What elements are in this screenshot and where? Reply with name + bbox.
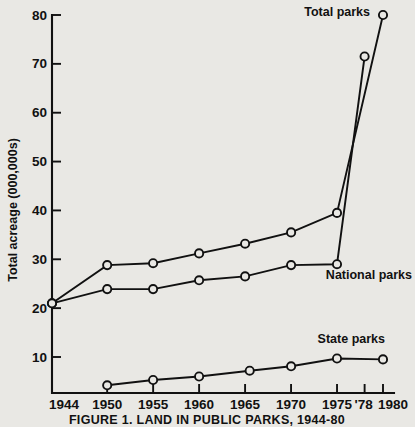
series-label-total-parks: Total parks [304, 5, 370, 19]
data-point-marker [241, 272, 249, 280]
data-point-marker [379, 355, 387, 363]
x-tick-label: 1980 [378, 397, 408, 412]
y-axis-label: Total acreage (000,000s) [6, 138, 20, 282]
data-point-marker [48, 299, 56, 307]
data-point-marker [287, 362, 295, 370]
data-point-marker [195, 372, 203, 380]
data-point-marker [149, 259, 157, 267]
y-tick-label: 50 [32, 154, 47, 169]
data-point-marker [287, 261, 295, 269]
figure-container: 1020304050607080 19441950195519601965197… [0, 0, 415, 427]
data-point-marker [379, 11, 387, 19]
x-tick-label: 1960 [184, 397, 214, 412]
x-tick-label: 1950 [92, 397, 122, 412]
data-point-marker [361, 52, 369, 60]
series-annotations: Total parksNational parksState parks [304, 5, 412, 346]
data-point-marker [103, 285, 111, 293]
data-point-marker [333, 209, 341, 217]
x-tick-label: 1970 [276, 397, 306, 412]
data-point-marker [149, 376, 157, 384]
y-tick-label: 60 [32, 105, 47, 120]
data-point-marker [287, 228, 295, 236]
series-line-total-parks [52, 15, 383, 303]
data-point-marker [149, 285, 157, 293]
data-point-marker [333, 354, 341, 362]
y-tick-label: 80 [32, 8, 47, 23]
data-point-marker [195, 249, 203, 257]
x-axis-ticks [107, 384, 383, 393]
series-line-national-parks [52, 57, 365, 304]
series-label-national-parks: National parks [326, 268, 412, 282]
y-axis-tick-labels: 1020304050607080 [32, 8, 47, 365]
data-point-marker [241, 240, 249, 248]
x-tick-label: 1944 [49, 397, 80, 412]
y-tick-label: 20 [32, 301, 47, 316]
series-label-state-parks: State parks [318, 332, 385, 346]
x-axis-tick-labels: 1944195019551960196519701975'781980 [49, 397, 408, 412]
y-tick-label: 10 [32, 350, 47, 365]
data-point-marker [246, 367, 254, 375]
data-point-marker [195, 276, 203, 284]
y-tick-label: 40 [32, 203, 47, 218]
data-point-marker [103, 261, 111, 269]
figure-caption: FIGURE 1. LAND IN PUBLIC PARKS, 1944-80 [69, 413, 345, 427]
x-tick-label: 1975 [322, 397, 353, 412]
y-tick-label: 30 [32, 252, 47, 267]
line-chart: 1020304050607080 19441950195519601965197… [0, 0, 415, 427]
x-tick-label: '78 [354, 397, 373, 412]
data-point-marker [103, 381, 111, 389]
x-tick-label: 1955 [138, 397, 169, 412]
x-tick-label: 1965 [230, 397, 261, 412]
y-tick-label: 70 [32, 56, 47, 71]
